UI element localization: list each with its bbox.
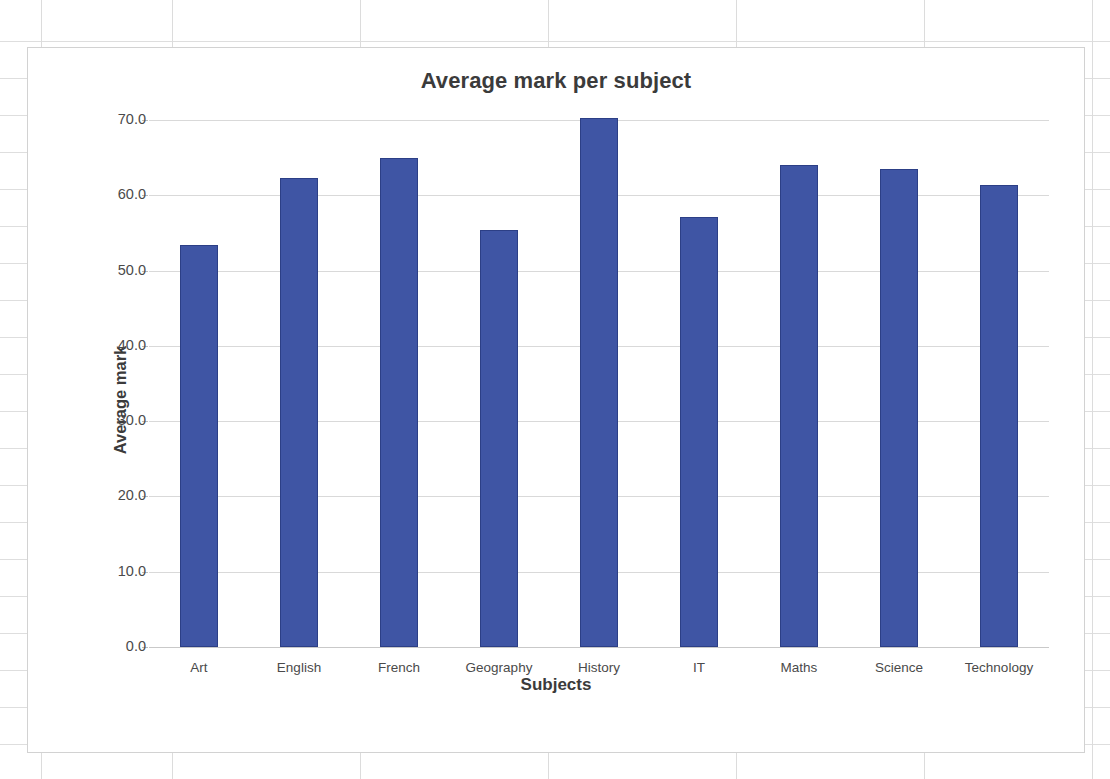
bar[interactable]: [880, 169, 918, 647]
x-axis-tick-label: Technology: [939, 660, 1059, 675]
bar[interactable]: [480, 230, 518, 647]
bar[interactable]: [380, 158, 418, 647]
x-axis-title: Subjects: [28, 675, 1084, 695]
chart-object[interactable]: Average mark per subject Average mark 70…: [27, 47, 1085, 753]
bar[interactable]: [580, 118, 618, 647]
y-axis-tick-label: 70.0: [86, 111, 146, 127]
sheet-column-line: [1092, 0, 1093, 779]
y-axis-tick-label: 40.0: [86, 337, 146, 353]
y-axis-tick-label: 0.0: [86, 638, 146, 654]
y-axis-tick-label: 10.0: [86, 563, 146, 579]
bar-series: [149, 120, 1049, 647]
y-axis-tick-label: 60.0: [86, 186, 146, 202]
bar[interactable]: [180, 245, 218, 647]
y-axis-tick-label: 30.0: [86, 412, 146, 428]
y-axis-tick-label: 50.0: [86, 262, 146, 278]
plot-area: 70.060.050.040.030.020.010.00.0 ArtEngli…: [149, 120, 1049, 647]
bar[interactable]: [780, 165, 818, 647]
chart-title: Average mark per subject: [28, 68, 1084, 94]
gridline: [149, 647, 1049, 648]
bar[interactable]: [280, 178, 318, 647]
bar[interactable]: [980, 185, 1018, 647]
y-axis-tick-label: 20.0: [86, 487, 146, 503]
sheet-row-line: [0, 41, 1110, 42]
bar[interactable]: [680, 217, 718, 647]
y-axis-title: Average mark: [111, 346, 130, 455]
